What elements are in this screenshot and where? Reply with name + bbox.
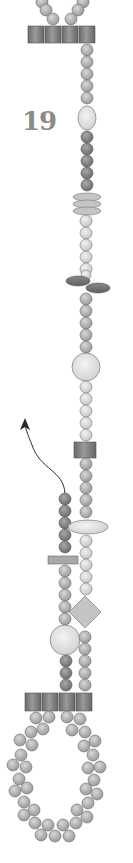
seed-bead-strand-upper — [81, 44, 93, 104]
light-seed-beads-right — [80, 535, 92, 595]
dark-seed-beads — [81, 131, 93, 191]
light-oval-bead — [78, 106, 96, 130]
seed-bead-strand-middle — [80, 293, 92, 353]
top-loop-beads — [36, 0, 89, 25]
dagger-beads — [66, 276, 110, 293]
bottom-tube-beads — [25, 693, 92, 711]
seed-bead-strand-right-lower — [80, 458, 92, 518]
light-seed-beads-lower — [80, 381, 92, 441]
diamond-bead — [69, 596, 101, 628]
beading-diagram — [0, 0, 133, 863]
large-round-bead — [72, 353, 100, 381]
large-round-bead-left — [50, 625, 80, 655]
light-seed-beads — [80, 215, 92, 280]
left-strand-dark-beads — [59, 493, 71, 553]
bottom-loop-beads — [7, 711, 106, 842]
right-strand-bottom-beads — [79, 631, 91, 691]
left-strand-seed-beads — [59, 565, 71, 625]
middle-tube-bead — [74, 442, 96, 458]
rondelle-discs — [73, 193, 101, 215]
left-strand-bottom-dark-beads — [60, 655, 72, 691]
bar-bead — [48, 556, 78, 564]
horizontal-oval-bead — [68, 520, 108, 534]
top-tube-beads — [28, 26, 95, 43]
threading-arrow-icon — [20, 418, 65, 494]
